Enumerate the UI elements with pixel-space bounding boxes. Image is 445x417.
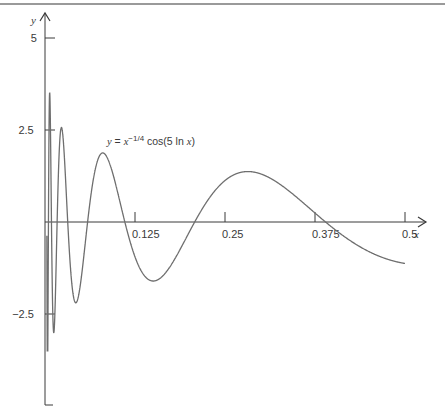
equation-annotation: y = x−1/4 cos(5 ln x) (106, 134, 195, 147)
x-tick-label: 0.125 (132, 228, 160, 240)
x-tick-label: 0.25 (222, 228, 243, 240)
axes: 0.1250.250.3750.552.5−2.5 (12, 13, 426, 405)
x-axis-label: x (413, 228, 419, 240)
y-axis-label: y (30, 14, 36, 26)
y-tick-label: 5 (31, 32, 37, 44)
y-tick-label: −2.5 (12, 308, 34, 320)
y-tick-label: 2.5 (18, 124, 33, 136)
plot-area: 0.1250.250.3750.552.5−2.5 y = x−1/4 cos(… (0, 0, 445, 417)
